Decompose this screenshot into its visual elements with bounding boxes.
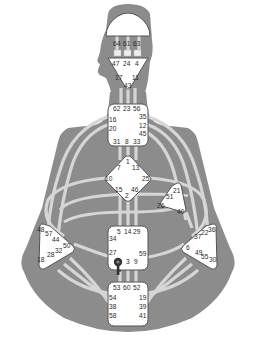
- gate-9: 9: [134, 258, 138, 265]
- gate-20: 20: [109, 125, 117, 132]
- gate-35: 35: [139, 113, 147, 120]
- sacral-center: 5 14 29 34 27 59 3 9: [108, 226, 148, 275]
- gate-52: 52: [133, 284, 141, 291]
- gate-32: 32: [55, 247, 63, 254]
- gate-61: 61: [123, 40, 131, 47]
- gate-22: 22: [201, 229, 209, 236]
- gate-5: 5: [117, 228, 121, 235]
- gate-6: 6: [186, 244, 190, 251]
- gate-25: 25: [142, 175, 150, 182]
- gate-55: 55: [201, 253, 209, 260]
- gate-31: 31: [113, 138, 121, 145]
- gate-connector: [124, 50, 131, 56]
- gate-63: 63: [133, 40, 141, 47]
- gate-43: 43: [124, 82, 132, 89]
- gate-24: 24: [123, 60, 131, 67]
- gate-38: 38: [109, 303, 117, 310]
- gate-41: 41: [139, 312, 147, 319]
- gate-46: 46: [131, 186, 139, 193]
- gate-36: 36: [208, 226, 216, 233]
- gate-34: 34: [109, 235, 117, 242]
- gate-48: 48: [37, 226, 45, 233]
- throat-center: 62 23 56 16 35 20 12 45 31 8 33: [108, 104, 148, 146]
- gate-50: 50: [63, 242, 71, 249]
- gate-62: 62: [113, 105, 121, 112]
- gate-4: 4: [135, 60, 139, 67]
- gate-11: 11: [132, 74, 139, 81]
- gate-15: 15: [115, 186, 123, 193]
- gate-64: 64: [113, 40, 121, 47]
- gate-45: 45: [139, 130, 147, 137]
- gate-14: 14: [124, 228, 132, 235]
- root-center: 53 60 52 54 19 38 39 58 41: [108, 282, 148, 326]
- gate-47: 47: [112, 60, 120, 67]
- gate-54: 54: [109, 294, 117, 301]
- gate-27: 27: [109, 249, 117, 256]
- gate-53: 53: [113, 284, 121, 291]
- gate-51: 51: [166, 193, 174, 200]
- gate-1: 1: [126, 158, 130, 165]
- gate-58: 58: [109, 312, 117, 319]
- bodygraph-chart: 64 61 63 47 24 4 17 11 43 62 23 56 16 35…: [0, 0, 256, 340]
- gate-44: 44: [52, 236, 60, 243]
- gate-12: 12: [139, 122, 147, 129]
- gate-29: 29: [133, 228, 141, 235]
- gate-19: 19: [139, 294, 147, 301]
- gate-16: 16: [109, 116, 117, 123]
- gate-17: 17: [115, 74, 123, 81]
- gate-8: 8: [125, 138, 129, 145]
- gate-connector: [134, 50, 141, 56]
- gate-56: 56: [133, 105, 141, 112]
- gate-28: 28: [47, 251, 55, 258]
- gate-30: 30: [209, 256, 217, 263]
- gate-connector: [114, 50, 121, 56]
- gate-18: 18: [37, 256, 45, 263]
- gate-2: 2: [125, 192, 129, 199]
- gate-23: 23: [123, 105, 131, 112]
- gate-37: 37: [194, 233, 202, 240]
- gate-33: 33: [133, 138, 141, 145]
- gate-10: 10: [105, 175, 113, 182]
- gate-59: 59: [139, 250, 147, 257]
- gate-26: 26: [157, 202, 165, 209]
- gate-21: 21: [173, 187, 181, 194]
- gate-40: 40: [177, 208, 185, 215]
- gate-3: 3: [126, 258, 130, 265]
- gate-7: 7: [117, 164, 121, 171]
- gate-39: 39: [139, 303, 147, 310]
- gate-13: 13: [132, 164, 140, 171]
- gate-60: 60: [123, 284, 131, 291]
